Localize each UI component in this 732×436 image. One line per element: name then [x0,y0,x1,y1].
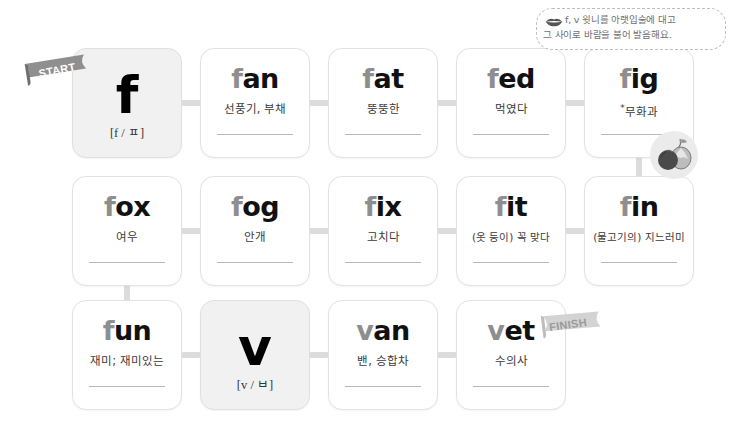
card-fit-word: fit [457,193,565,220]
connector-v-van [310,352,328,358]
card-fat-rest: at [374,63,404,94]
card-fit-blank[interactable] [473,262,549,263]
connector-van-vet [438,352,456,358]
card-fan-head: f [231,63,242,94]
card-fit-meaning: (옷 등이) 꼭 맞다 [459,231,563,244]
fig-fruit-icon [650,131,698,179]
card-fog-head: f [231,191,242,222]
phonics-board: f [f / ㅍ] fan 선풍기, 부채 fat 뚱뚱한 fed 먹였다 fi… [0,0,732,436]
finish-flag: FINISH [539,306,604,341]
connector-f-fan [182,100,200,106]
connector-fan-fat [310,100,328,106]
card-fun-head: f [103,315,114,346]
card-fog-word: fog [201,193,309,220]
card-fan-rest: an [242,63,278,94]
card-fog[interactable]: fog 안개 [200,176,310,286]
card-van[interactable]: van 밴, 승합차 [328,300,438,410]
card-van-blank[interactable] [345,386,421,387]
finish-flag-shape [539,306,604,341]
card-fit[interactable]: fit (옷 등이) 꼭 맞다 [456,176,566,286]
card-fog-rest: og [242,191,279,222]
card-van-head: v [356,315,373,346]
card-fat[interactable]: fat 뚱뚱한 [328,48,438,158]
card-fat-head: f [362,63,373,94]
card-fit-rest: it [506,191,527,222]
card-fan[interactable]: fan 선풍기, 부채 [200,48,310,158]
card-fed-word: fed [457,65,565,92]
card-fed-meaning: 먹였다 [459,103,563,117]
card-v-phonetic: [v / ㅂ] [201,374,309,393]
card-fox-head: f [104,191,115,222]
card-fig-meaning-text: 무화과 [625,105,658,119]
card-fed-blank[interactable] [473,134,549,135]
card-fat-meaning: 뚱뚱한 [331,103,435,117]
card-fin-head: f [620,191,631,222]
card-f-phonetic: [f / ㅍ] [73,122,181,141]
card-fin[interactable]: fin (물고기의) 지느러미 [584,176,694,286]
card-fan-meaning: 선풍기, 부채 [203,103,307,117]
card-van-meaning: 밴, 승합차 [331,355,435,369]
card-fun-blank[interactable] [89,386,165,387]
card-vet-head: v [487,315,504,346]
card-fix-word: fix [329,193,437,220]
card-fog-blank[interactable] [217,262,293,263]
card-fed-rest: ed [498,63,535,94]
card-fin-word: fin [585,193,693,220]
card-fan-word: fan [201,65,309,92]
connector-fun-v [182,352,200,358]
card-fed-head: f [487,63,498,94]
card-fan-blank[interactable] [217,134,293,135]
card-vet-meaning: 수의사 [459,355,563,369]
card-fun-word: fun [73,317,181,344]
note-line-2: 그 사이로 바람을 불어 발음해요. [543,28,719,43]
card-fin-blank[interactable] [601,262,677,263]
card-v[interactable]: v [v / ㅂ] [200,300,310,410]
card-fig-meaning: *무화과 [587,103,691,120]
connector-fed-fig [566,100,584,106]
card-vet-blank[interactable] [473,386,549,387]
card-fat-blank[interactable] [345,134,421,135]
card-van-rest: an [373,315,409,346]
card-fin-meaning: (물고기의) 지느러미 [577,231,701,244]
connector-fog-fix [310,228,328,234]
card-fix-meaning: 고치다 [331,231,435,245]
card-fin-rest: in [631,191,658,222]
card-fox-meaning: 여우 [75,231,179,245]
card-fig-head: f [620,63,631,94]
connector-fix-fit [438,228,456,234]
card-fog-meaning: 안개 [203,231,307,245]
card-fig-word: fig [585,65,693,92]
card-fat-word: fat [329,65,437,92]
card-fox-rest: ox [115,191,150,222]
card-fox-word: fox [73,193,181,220]
card-fed[interactable]: fed 먹였다 [456,48,566,158]
connector-fat-fed [438,100,456,106]
card-fig-rest: ig [631,63,659,94]
card-fun[interactable]: fun 재미; 재미있는 [72,300,182,410]
card-van-word: van [329,317,437,344]
card-fun-meaning: 재미; 재미있는 [75,355,179,369]
card-fix-head: f [365,191,376,222]
card-v-letter: v [201,321,309,373]
connector-fox-fog [182,228,200,234]
card-fox-blank[interactable] [89,262,165,263]
note-line-1: f, v 윗니를 아랫입술에 대고 [543,13,719,28]
fig-illustration-badge [650,131,698,179]
lips-icon [545,17,563,27]
card-fix-rest: ix [376,191,402,222]
card-fix[interactable]: fix 고치다 [328,176,438,286]
card-fox[interactable]: fox 여우 [72,176,182,286]
pronunciation-note: f, v 윗니를 아랫입술에 대고 그 사이로 바람을 불어 발음해요. [536,8,726,50]
card-fix-blank[interactable] [345,262,421,263]
card-fun-rest: un [114,315,151,346]
card-vet-rest: et [504,315,534,346]
card-fit-head: f [495,191,506,222]
